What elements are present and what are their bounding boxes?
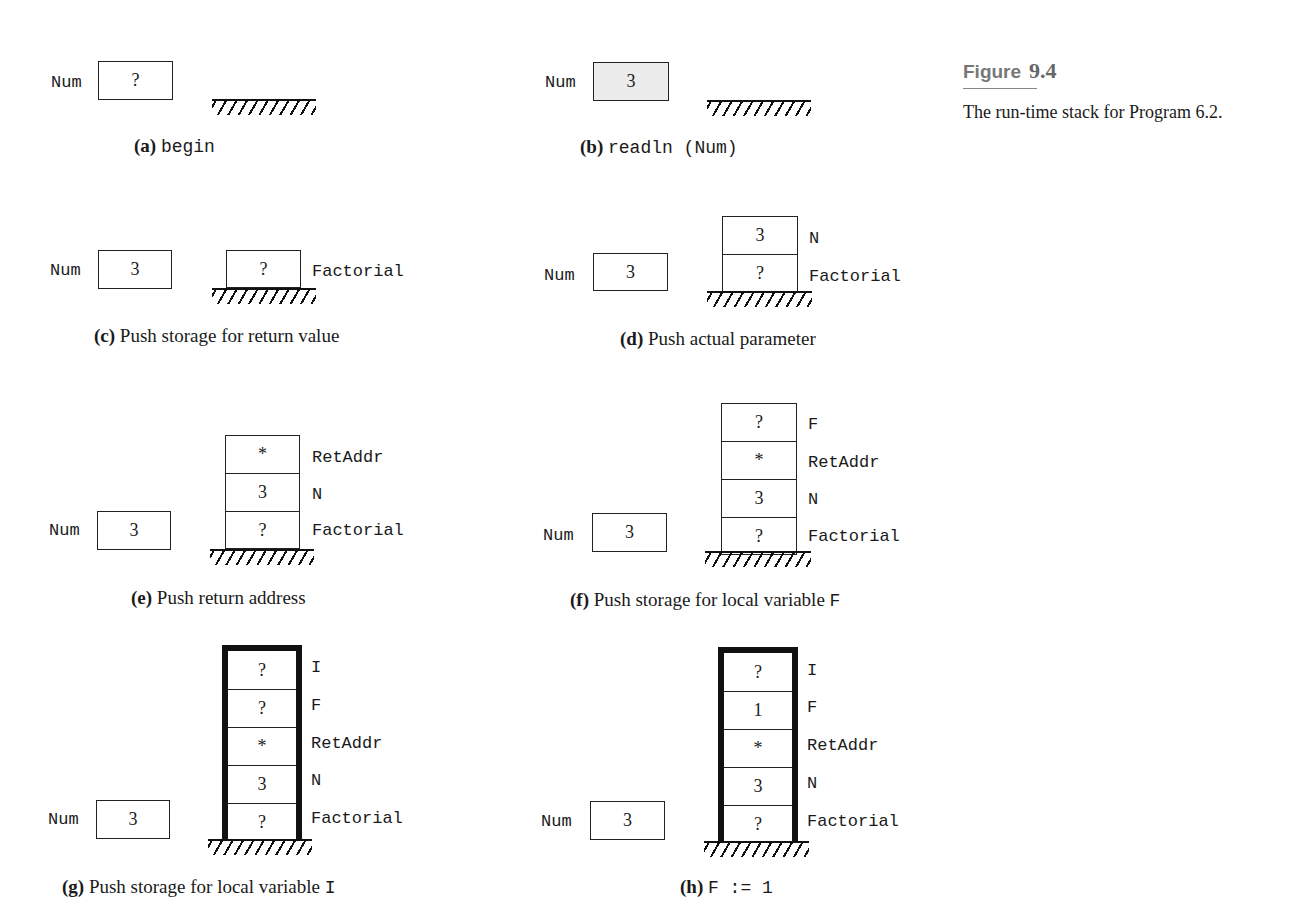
stack-base-ground	[208, 839, 312, 855]
run-time-stack: ? * 3 ?	[721, 403, 797, 555]
stack-cell-factorial: ?	[225, 511, 300, 549]
caption-h: (h) F := 1	[680, 876, 773, 898]
caption-code: I	[325, 878, 336, 898]
stack-cell-i: ?	[724, 653, 792, 691]
stack-label-n: N	[312, 485, 322, 504]
figure-caption: The run-time stack for Program 6.2.	[963, 102, 1222, 123]
caption-tag: (g)	[62, 876, 84, 897]
stack-cell-n: 3	[722, 216, 798, 254]
stack-label-retaddr: RetAddr	[311, 734, 382, 753]
stack-cell-n: 3	[721, 479, 797, 517]
stack-label-n: N	[808, 490, 818, 509]
stack-cell-n: 3	[225, 473, 300, 511]
run-time-stack: ?	[226, 250, 301, 288]
caption-tag: (d)	[620, 328, 643, 349]
stack-cell-n: 3	[724, 767, 792, 805]
stack-cell-factorial: ?	[722, 254, 798, 292]
caption-tag: (h)	[680, 876, 703, 897]
stack-cell-retaddr: *	[228, 727, 296, 765]
stack-label-factorial: Factorial	[809, 267, 901, 286]
stack-label-factorial: Factorial	[808, 527, 900, 546]
caption-b: (b) readln (Num)	[580, 136, 738, 158]
stack-cell-n: 3	[228, 765, 296, 803]
figure-label: Figure	[963, 61, 1021, 82]
stack-cell-retaddr: *	[724, 729, 792, 767]
stack-label-f: F	[807, 698, 817, 717]
figure-title: Figure9.4	[963, 58, 1057, 84]
caption-text: Push actual parameter	[648, 328, 816, 349]
stack-label-f: F	[808, 415, 818, 434]
stack-base-ground	[212, 99, 316, 115]
stack-cell-f: ?	[228, 689, 296, 727]
stack-label-retaddr: RetAddr	[312, 448, 383, 467]
stack-cell-factorial: ?	[721, 517, 797, 555]
stack-label-retaddr: RetAddr	[807, 736, 878, 755]
caption-tag: (c)	[94, 325, 115, 346]
stack-label-n: N	[311, 771, 321, 790]
caption-text: Push return address	[157, 587, 306, 608]
stack-label-retaddr: RetAddr	[808, 453, 879, 472]
run-time-stack-activation-record: ? 1 * 3 ?	[718, 647, 798, 841]
stack-label-i: I	[807, 661, 817, 680]
stack-label-factorial: Factorial	[312, 521, 404, 540]
stack-base-ground	[212, 288, 316, 304]
stack-base-ground	[707, 291, 812, 307]
stack-cell-f: ?	[721, 403, 797, 441]
caption-tag: (f)	[570, 589, 589, 610]
num-label: Num	[51, 73, 82, 93]
num-box: 3	[98, 250, 172, 289]
run-time-stack-activation-record: ? ? * 3 ?	[222, 645, 302, 839]
caption-d: (d) Push actual parameter	[620, 328, 816, 350]
caption-code: readln (Num)	[608, 138, 738, 158]
caption-text: Push storage for local variable	[89, 876, 320, 897]
stack-label-factorial: Factorial	[311, 809, 403, 828]
stack-base-ground	[210, 549, 314, 565]
num-label: Num	[541, 812, 572, 832]
stack-label-f: F	[311, 696, 321, 715]
num-box: 3	[96, 800, 170, 839]
caption-text: Push storage for return value	[120, 325, 340, 346]
figure-rule	[963, 88, 1037, 89]
run-time-stack: * 3 ?	[225, 435, 300, 549]
num-label: Num	[48, 810, 79, 830]
num-label: Num	[49, 521, 80, 541]
caption-text: Push storage for local variable	[594, 589, 825, 610]
stack-cell-factorial: ?	[724, 805, 792, 843]
caption-tag: (b)	[580, 136, 603, 157]
caption-code: F := 1	[708, 878, 773, 898]
stack-base-ground	[707, 100, 811, 116]
num-label: Num	[50, 261, 81, 281]
caption-tag: (a)	[134, 135, 156, 156]
caption-code: begin	[161, 137, 215, 157]
caption-tag: (e)	[131, 587, 152, 608]
stack-cell-factorial: ?	[226, 250, 301, 288]
caption-a: (a) begin	[134, 135, 215, 157]
num-box: 3	[592, 513, 667, 552]
num-box: ?	[98, 61, 173, 100]
num-label: Num	[544, 266, 575, 286]
stack-cell-retaddr: *	[721, 441, 797, 479]
num-box: 3	[593, 62, 669, 101]
caption-c: (c) Push storage for return value	[94, 325, 339, 347]
num-box: 3	[97, 511, 171, 550]
stack-label-n: N	[807, 774, 817, 793]
caption-g: (g) Push storage for local variable I	[62, 876, 336, 898]
caption-e: (e) Push return address	[131, 587, 306, 609]
stack-cell-factorial: ?	[228, 803, 296, 841]
stack-label-n: N	[809, 229, 819, 248]
num-box: 3	[590, 801, 665, 840]
stack-cell-retaddr: *	[225, 435, 300, 473]
num-label: Num	[543, 526, 574, 546]
stack-cell-i: ?	[228, 651, 296, 689]
caption-code: F	[830, 591, 841, 611]
stack-base-ground	[704, 841, 809, 857]
run-time-stack: 3 ?	[722, 216, 798, 292]
stack-base-ground	[705, 551, 811, 567]
figure-number: 9.4	[1029, 58, 1057, 83]
num-label: Num	[545, 73, 576, 93]
num-box: 3	[593, 253, 668, 291]
stack-label-i: I	[311, 658, 321, 677]
stack-label-factorial: Factorial	[312, 262, 404, 281]
caption-f: (f) Push storage for local variable F	[570, 589, 840, 611]
stack-label-factorial: Factorial	[807, 812, 899, 831]
